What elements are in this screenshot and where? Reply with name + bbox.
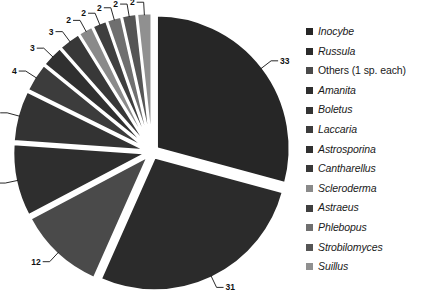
- chart-legend: Inocybe Russula Others (1 sp. each) Aman…: [306, 22, 436, 284]
- legend-item[interactable]: Suillus: [306, 257, 436, 277]
- legend-item-label: Astrosporina: [318, 140, 376, 160]
- legend-item[interactable]: Amanita: [306, 81, 436, 101]
- slice-value-label: 4: [12, 66, 17, 76]
- legend-swatch-icon: [306, 28, 313, 35]
- pie-svg: 33311210743322222: [0, 0, 300, 295]
- pie-chart-figure: 33311210743322222 Inocybe Russula Others…: [0, 0, 436, 295]
- slice-value-label: 33: [280, 56, 290, 66]
- legend-swatch-icon: [306, 165, 313, 172]
- legend-item-label: Scleroderma: [318, 179, 376, 199]
- slice-value-label: 2: [113, 0, 118, 9]
- pie-slice[interactable]: [157, 15, 290, 183]
- slice-value-label: 2: [66, 15, 71, 25]
- legend-swatch-icon: [306, 67, 313, 74]
- legend-swatch-icon: [306, 224, 313, 231]
- slice-value-label: 31: [226, 282, 236, 292]
- legend-swatch-icon: [306, 107, 313, 114]
- slice-value-label: 12: [31, 257, 41, 267]
- legend-item[interactable]: Others (1 sp. each): [306, 61, 436, 81]
- legend-item[interactable]: Scleroderma: [306, 179, 436, 199]
- legend-item-label: Astraeus: [318, 198, 359, 218]
- legend-item-label: Phlebopus: [318, 218, 367, 238]
- legend-swatch-icon: [306, 244, 313, 251]
- legend-item[interactable]: Inocybe: [306, 22, 436, 42]
- legend-item[interactable]: Astrosporina: [306, 140, 436, 160]
- legend-item-label: Russula: [318, 42, 355, 62]
- slice-value-label: 3: [30, 43, 35, 53]
- legend-swatch-icon: [306, 126, 313, 133]
- legend-swatch-icon: [306, 87, 313, 94]
- pie-chart-plot: 33311210743322222: [0, 0, 300, 295]
- legend-item-label: Inocybe: [318, 22, 354, 42]
- slice-value-label: 2: [81, 8, 86, 18]
- legend-swatch-icon: [306, 263, 313, 270]
- legend-swatch-icon: [306, 48, 313, 55]
- legend-item-label: Strobilomyces: [318, 238, 383, 258]
- legend-item[interactable]: Astraeus: [306, 198, 436, 218]
- legend-item[interactable]: Phlebopus: [306, 218, 436, 238]
- legend-item[interactable]: Cantharellus: [306, 159, 436, 179]
- legend-item-label: Boletus: [318, 100, 352, 120]
- slice-leader-line: [0, 113, 20, 116]
- legend-swatch-icon: [306, 205, 313, 212]
- legend-item-label: Cantharellus: [318, 159, 376, 179]
- legend-item-label: Amanita: [318, 81, 356, 101]
- legend-item-label: Others (1 sp. each): [318, 61, 406, 81]
- legend-item[interactable]: Laccaria: [306, 120, 436, 140]
- legend-swatch-icon: [306, 185, 313, 192]
- legend-item[interactable]: Strobilomyces: [306, 238, 436, 258]
- legend-swatch-icon: [306, 146, 313, 153]
- slice-value-label: 2: [97, 3, 102, 13]
- legend-item-label: Suillus: [318, 257, 348, 277]
- slice-value-label: 3: [49, 27, 54, 37]
- slice-value-label: 2: [130, 0, 135, 7]
- legend-item-label: Laccaria: [318, 120, 357, 140]
- legend-item[interactable]: Boletus: [306, 100, 436, 120]
- legend-item[interactable]: Russula: [306, 42, 436, 62]
